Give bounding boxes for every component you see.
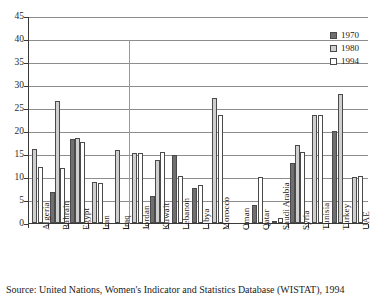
x-axis-label-uae: UAE — [362, 211, 371, 230]
bar-group — [89, 17, 109, 223]
bar-group — [129, 17, 149, 223]
legend-label: 1970 — [341, 31, 359, 40]
bar — [155, 160, 160, 223]
bar-group — [49, 17, 69, 223]
x-axis-label-morocco: Morocco — [222, 197, 231, 230]
bar-group — [29, 17, 49, 223]
y-tick-label-5: 5 — [8, 196, 24, 206]
x-axis-label-kuwait: Kuwait — [162, 203, 171, 230]
bar — [92, 182, 97, 223]
y-tick-label-45: 45 — [8, 12, 24, 22]
legend-item-1980: 1980 — [330, 42, 388, 55]
y-tick-label-0: 0 — [8, 219, 24, 229]
bar-group — [249, 17, 269, 223]
bar-group — [149, 17, 169, 223]
source-note: Source: United Nations, Women's Indicato… — [6, 284, 345, 295]
bar-group — [169, 17, 189, 223]
bar — [272, 221, 277, 223]
bar-group — [289, 17, 309, 223]
bar — [295, 145, 300, 223]
y-tick-label-20: 20 — [8, 127, 24, 137]
y-tick-label-25: 25 — [8, 104, 24, 114]
y-tick-label-15: 15 — [8, 150, 24, 160]
bar — [352, 177, 357, 223]
legend-swatch-icon — [330, 45, 337, 52]
y-tick-label-40: 40 — [8, 35, 24, 45]
x-axis-label-iraq: Iraq — [122, 215, 131, 230]
legend-label: 1980 — [341, 44, 359, 53]
bar-series-container — [29, 17, 368, 223]
chart-legend: 197019801994 — [330, 29, 388, 68]
bar — [172, 155, 177, 223]
bar — [32, 149, 37, 223]
bar — [312, 115, 317, 223]
legend-label: 1994 — [341, 57, 359, 66]
legend-swatch-icon — [330, 32, 337, 39]
bar — [55, 101, 60, 223]
bar — [332, 131, 337, 223]
x-axis-label-algeria: Algeria — [42, 202, 51, 230]
x-axis-label-jordan: Jordan — [142, 205, 151, 230]
x-axis-label-turkey: Turkey — [342, 204, 351, 230]
x-axis-label-qatar: Qatar — [262, 210, 271, 231]
bar-group — [69, 17, 89, 223]
bar-group — [109, 17, 129, 223]
x-axis-label-tunisia: Tunisia — [322, 203, 331, 230]
bar — [252, 205, 257, 223]
y-tick-label-10: 10 — [8, 173, 24, 183]
bar-group — [309, 17, 329, 223]
x-axis-label-egypt: Egypt — [82, 208, 91, 230]
bar-group — [209, 17, 229, 223]
legend-swatch-icon — [330, 58, 337, 65]
x-axis-label-syria: Syria — [302, 211, 311, 231]
y-tick-label-30: 30 — [8, 81, 24, 91]
x-axis-label-libya: Libya — [202, 209, 211, 231]
bar — [75, 138, 80, 223]
bar-group — [189, 17, 209, 223]
bar — [115, 150, 120, 223]
legend-item-1994: 1994 — [330, 55, 388, 68]
bar — [212, 98, 217, 223]
bar — [132, 153, 137, 223]
bar-chart-figure: 051015202530354045 AlgeriaBahrainEgyptIr… — [0, 0, 391, 305]
y-tick-label-35: 35 — [8, 58, 24, 68]
legend-item-1970: 1970 — [330, 29, 388, 42]
x-axis-label-saudi-arabia: Saudi Arabia — [282, 182, 291, 230]
x-tick-mark — [28, 224, 29, 228]
x-axis-label-iran: Iran — [102, 215, 111, 230]
plot-divider-line — [129, 40, 130, 224]
x-axis-label-oman: Oman — [242, 208, 251, 230]
plot-area — [28, 17, 368, 224]
bar-group — [229, 17, 249, 223]
x-axis-label-lebanon: Lebanon — [182, 198, 191, 230]
bar — [192, 188, 197, 223]
x-axis-label-bahrain: Bahrain — [62, 201, 71, 230]
